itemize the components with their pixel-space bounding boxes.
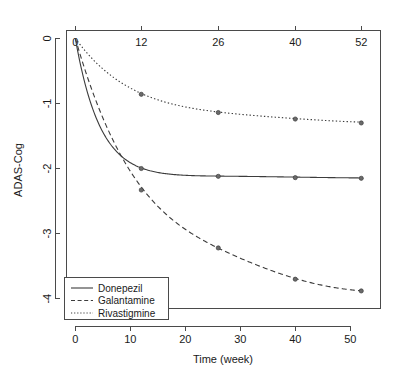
series-donepezil (75, 38, 363, 180)
series-galantamine (75, 38, 363, 293)
data-point (216, 174, 220, 178)
data-point (293, 277, 297, 281)
legend-label: Donepezil (98, 283, 142, 294)
series-line-galantamine (75, 38, 361, 291)
chart-figure: 012264052 01020304050 0-1-2-3-4 Time (we… (0, 0, 403, 379)
left-axis: 0-1-2-3-4 (41, 35, 60, 303)
legend-label: Galantamine (98, 295, 155, 306)
legend-label: Rivastigmine (98, 308, 156, 319)
top-axis-tick-label: 12 (135, 36, 147, 48)
x-axis-tick-label: 10 (124, 333, 136, 345)
x-axis-title: Time (week) (193, 353, 253, 365)
series-layer (75, 38, 363, 293)
adas-cog-line-chart: 012264052 01020304050 0-1-2-3-4 Time (we… (0, 0, 403, 379)
data-point (293, 176, 297, 180)
y-axis-tick-label: -4 (41, 294, 53, 304)
data-point (139, 166, 143, 170)
y-axis-title: ADAS-Cog (12, 143, 24, 197)
y-axis-tick-label: -1 (41, 99, 53, 109)
top-axis: 012264052 (72, 26, 367, 48)
x-axis-tick-label: 20 (179, 333, 191, 345)
data-point (293, 117, 297, 121)
data-point (359, 121, 363, 125)
series-rivastigmine (75, 38, 363, 125)
bottom-axis: 01020304050 (72, 326, 356, 345)
series-line-donepezil (75, 38, 361, 178)
x-axis-tick-label: 0 (72, 333, 78, 345)
data-point (139, 188, 143, 192)
series-line-rivastigmine (75, 38, 361, 122)
data-point (359, 289, 363, 293)
top-axis-tick-label: 52 (355, 36, 367, 48)
chart-legend: DonepezilGalantamineRivastigmine (65, 278, 169, 320)
data-point (139, 92, 143, 96)
y-axis-tick-label: 0 (41, 35, 53, 41)
data-point (216, 110, 220, 114)
y-axis-tick-label: -2 (41, 164, 53, 174)
y-axis-tick-label: -3 (41, 229, 53, 239)
data-point (216, 246, 220, 250)
data-point (359, 176, 363, 180)
x-axis-tick-label: 40 (289, 333, 301, 345)
plot-area-border (67, 31, 381, 309)
top-axis-tick-label: 26 (212, 36, 224, 48)
top-axis-tick-label: 40 (289, 36, 301, 48)
x-axis-tick-label: 50 (344, 333, 356, 345)
x-axis-tick-label: 30 (234, 333, 246, 345)
